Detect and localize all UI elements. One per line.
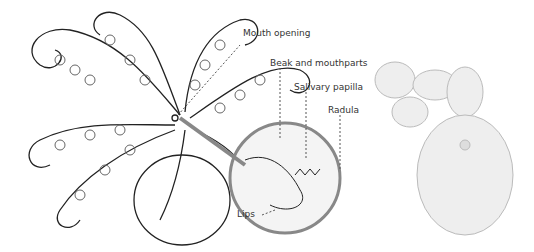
- label-salivary: Salivary papilla: [294, 82, 363, 92]
- label-beak: Beak and mouthparts: [270, 58, 367, 68]
- label-mouth-opening: Mouth opening: [243, 28, 310, 38]
- label-lips: Lips: [237, 209, 255, 219]
- label-radula: Radula: [328, 105, 359, 115]
- shell-photo: [375, 62, 513, 235]
